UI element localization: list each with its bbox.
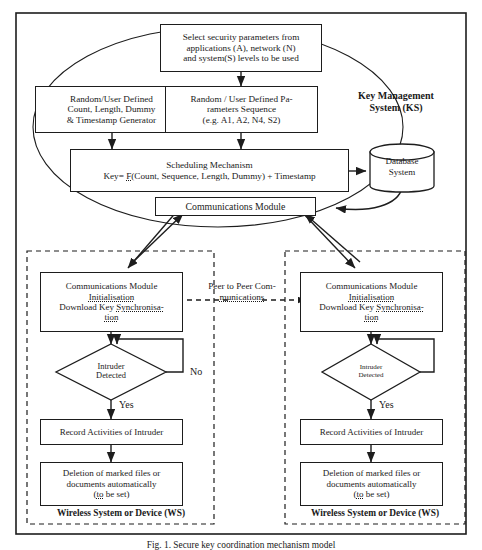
right-record-label: Record Activities of Intruder bbox=[317, 427, 427, 437]
right-comm-line3-prefix: Download Key bbox=[319, 302, 376, 312]
scheduling-key-rest: (Count, Sequence, Length, Dummy) + Times… bbox=[131, 171, 315, 181]
right-comm-line4-word: tion bbox=[364, 312, 378, 322]
arrow-right-ws-to-comm-module bbox=[305, 214, 360, 262]
right-comm-line3-word: Synchronisa- bbox=[376, 302, 424, 312]
right-deletion-line2: documents automatically bbox=[326, 479, 416, 489]
left-decision-label: Intruder Detected bbox=[76, 362, 146, 380]
left-deletion-line2: documents automatically bbox=[66, 479, 156, 489]
figure-caption-text: Fig. 1. Secure key coordination mechanis… bbox=[147, 540, 336, 550]
ks-label-line1: Key Management bbox=[358, 90, 434, 101]
right-deletion-line3-rest: be set) bbox=[364, 489, 390, 499]
arrow-comm-module-to-left-ws bbox=[128, 210, 178, 268]
select-params-line2: applications (A), network (N) bbox=[186, 43, 295, 53]
right-branch-yes-label: Yes bbox=[379, 399, 409, 411]
left-comm-line3-word: Synchronisa- bbox=[116, 302, 164, 312]
select-params-line1: Select security parameters from bbox=[183, 32, 300, 42]
generator-line1: Random/User Defined bbox=[70, 94, 153, 104]
sequence-line3: (e.g. A1, A2, N4, S2) bbox=[203, 115, 281, 125]
generator-line2: Count, Length, Dummy bbox=[68, 104, 156, 114]
left-deletion-line3-word: to bbox=[96, 489, 103, 499]
figure-canvas: Select security parameters from applicat… bbox=[0, 0, 482, 550]
left-record-activities-box: Record Activities of Intruder bbox=[40, 419, 183, 445]
database-line2: System bbox=[389, 167, 416, 177]
left-comm-line4-word: tion bbox=[104, 312, 118, 322]
left-yes-text: Yes bbox=[119, 399, 134, 410]
right-wireless-system-caption: Wireless System or Device (WS) bbox=[288, 508, 462, 518]
right-decision-label: Intruder Detected bbox=[340, 364, 402, 379]
left-record-label: Record Activities of Intruder bbox=[57, 427, 167, 437]
select-security-parameters-box: Select security parameters from applicat… bbox=[160, 24, 322, 72]
key-management-system-label: Key Management System (KS) bbox=[330, 90, 462, 114]
left-comm-line1: Communications Module bbox=[66, 281, 158, 291]
arrow-comm-module-to-right-ws bbox=[300, 210, 355, 268]
right-comm-module-init-box: Communications Module Initialisation Dow… bbox=[300, 272, 443, 332]
left-wireless-system-caption: Wireless System or Device (WS) bbox=[32, 508, 210, 518]
left-deletion-box: Deletion of marked files or documents au… bbox=[40, 462, 183, 506]
scheduling-mechanism-box: Scheduling Mechanism Key= F(Count, Seque… bbox=[70, 149, 349, 192]
scheduling-line1: Scheduling Mechanism bbox=[166, 160, 253, 170]
right-deletion-box: Deletion of marked files or documents au… bbox=[300, 462, 443, 506]
left-comm-line3-prefix: Download Key bbox=[59, 302, 116, 312]
left-comm-module-init-box: Communications Module Initialisation Dow… bbox=[40, 272, 183, 332]
left-decision-line2: Detected bbox=[96, 371, 126, 380]
left-decision-line1: Intruder bbox=[98, 362, 125, 371]
select-params-line3: and system(S) levels to be used bbox=[183, 53, 299, 63]
right-comm-line1: Communications Module bbox=[326, 281, 418, 291]
sequence-line2: rameters Sequence bbox=[207, 104, 276, 114]
sequence-line1: Random / User Defined Pa- bbox=[190, 94, 292, 104]
random-parameters-sequence-box: Random / User Defined Pa- rameters Seque… bbox=[165, 86, 318, 133]
database-system-label: Database System bbox=[370, 156, 434, 178]
communications-module-label: Communications Module bbox=[183, 201, 289, 212]
peer-to-peer-label: Peer to Peer Com- munications bbox=[181, 281, 303, 303]
left-branch-yes-label: Yes bbox=[119, 399, 149, 411]
scheduling-key-prefix: Key= bbox=[103, 171, 126, 181]
ks-label-line2: System (KS) bbox=[369, 102, 422, 113]
left-branch-no-label: No bbox=[190, 366, 216, 378]
right-deletion-line1: Deletion of marked files or bbox=[323, 468, 420, 478]
right-decision-line2: Detected bbox=[359, 371, 384, 379]
database-line1: Database bbox=[386, 156, 419, 166]
right-ws-caption-text: Wireless System or Device (WS) bbox=[311, 508, 439, 518]
right-comm-line2: Initialisation bbox=[349, 292, 395, 302]
generator-line3: & Timestamp Generator bbox=[67, 115, 156, 125]
left-deletion-line1: Deletion of marked files or bbox=[63, 468, 160, 478]
peer-line2: munications bbox=[220, 292, 265, 302]
right-record-activities-box: Record Activities of Intruder bbox=[300, 419, 443, 445]
left-ws-caption-text: Wireless System or Device (WS) bbox=[57, 508, 185, 518]
left-deletion-line3-rest: be set) bbox=[104, 489, 130, 499]
communications-module-box: Communications Module bbox=[155, 197, 316, 216]
left-no-text: No bbox=[190, 366, 202, 377]
peer-line1: Peer to Peer Com- bbox=[208, 281, 276, 291]
figure-caption: Fig. 1. Secure key coordination mechanis… bbox=[0, 540, 482, 550]
right-yes-text: Yes bbox=[379, 399, 394, 410]
left-comm-line2: Initialisation bbox=[89, 292, 135, 302]
right-deletion-line3-word: to bbox=[356, 489, 363, 499]
